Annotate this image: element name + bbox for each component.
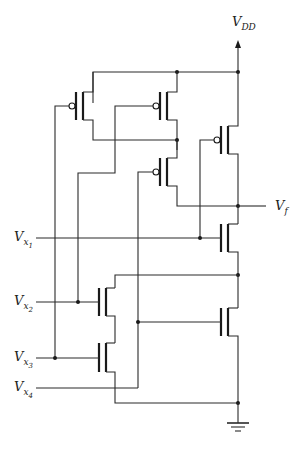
label-vx2: Vx2 [14, 293, 33, 313]
nmos-x1 [221, 206, 238, 275]
label-vf: Vf [275, 198, 288, 216]
pmos-x3 [55, 72, 177, 358]
nmos-x3 [99, 343, 238, 403]
vdd-rail [93, 72, 238, 103]
pmos-x4 [138, 140, 238, 388]
pmos-x2 [78, 72, 177, 302]
circuit-diagram: VDD Vf Vx1 Vx2 Vx3 Vx4 [0, 0, 301, 450]
schematic-svg [0, 0, 301, 450]
nmos-x2 [99, 288, 115, 343]
pmos-output [200, 72, 238, 238]
label-vx3: Vx3 [14, 349, 33, 369]
mid-node-wire [115, 275, 238, 288]
label-vdd: VDD [232, 14, 256, 32]
vdd-arrow-icon [235, 40, 241, 72]
nmos-x4 [138, 275, 238, 403]
label-vx1: Vx1 [14, 229, 33, 249]
ground-icon [227, 403, 249, 431]
label-vx4: Vx4 [14, 379, 33, 399]
